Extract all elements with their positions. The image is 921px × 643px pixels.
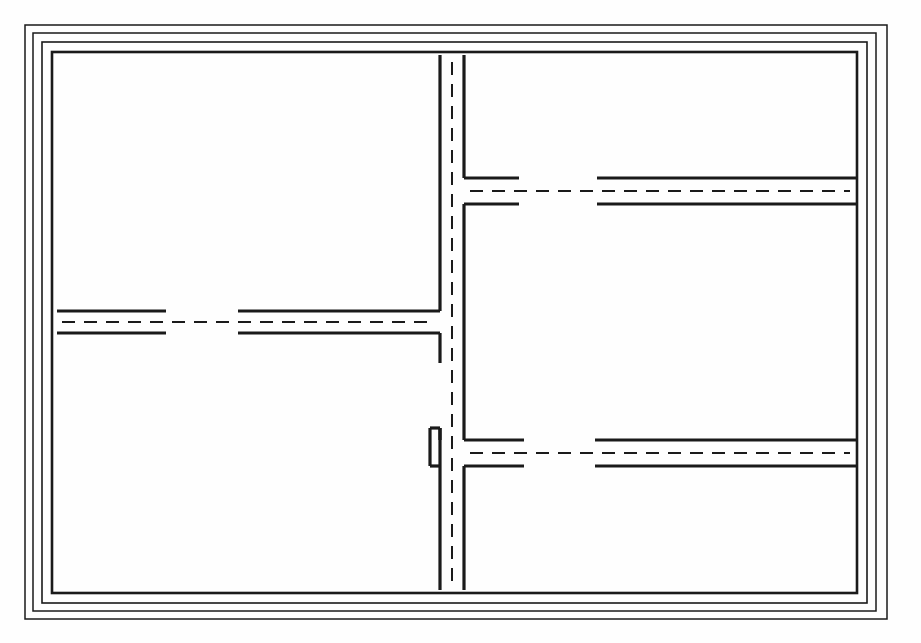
drawing-canvas xyxy=(0,0,921,643)
road-network-plan-svg xyxy=(0,0,921,643)
